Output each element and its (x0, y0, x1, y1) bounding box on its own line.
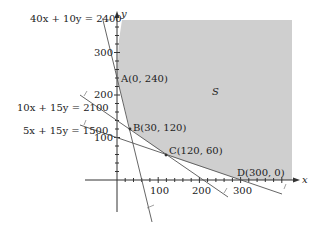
constraint-label-c2: 10x + 15y = 2100 (17, 102, 109, 113)
x-tick-label: 200 (192, 185, 211, 196)
x-tick-label: 300 (233, 185, 252, 196)
x-axis-label: x (302, 174, 308, 185)
vertex-dot-B (129, 128, 132, 131)
region-label: S (212, 86, 219, 97)
constraint-label-c1: 40x + 10y = 2400 (30, 13, 122, 24)
x-axis-arrow-icon (293, 178, 300, 183)
y-tick-label: 200 (94, 89, 113, 100)
vertex-label-B: B(30, 120) (133, 122, 186, 133)
feasible-region (117, 20, 292, 180)
x-tick-label: 100 (150, 185, 169, 196)
feasible-region-diagram: x y 100 200 300 100 200 300 S 40x + 10y … (0, 0, 321, 225)
y-tick-label: 300 (94, 47, 113, 58)
vertex-label-D: D(300, 0) (237, 167, 285, 178)
constraint-label-c3: 5x + 15y = 1500 (23, 125, 108, 136)
vertex-label-A: A(0, 240) (120, 73, 168, 84)
vertex-dot-C (165, 154, 168, 157)
vertex-label-C: C(120, 60) (169, 145, 223, 156)
